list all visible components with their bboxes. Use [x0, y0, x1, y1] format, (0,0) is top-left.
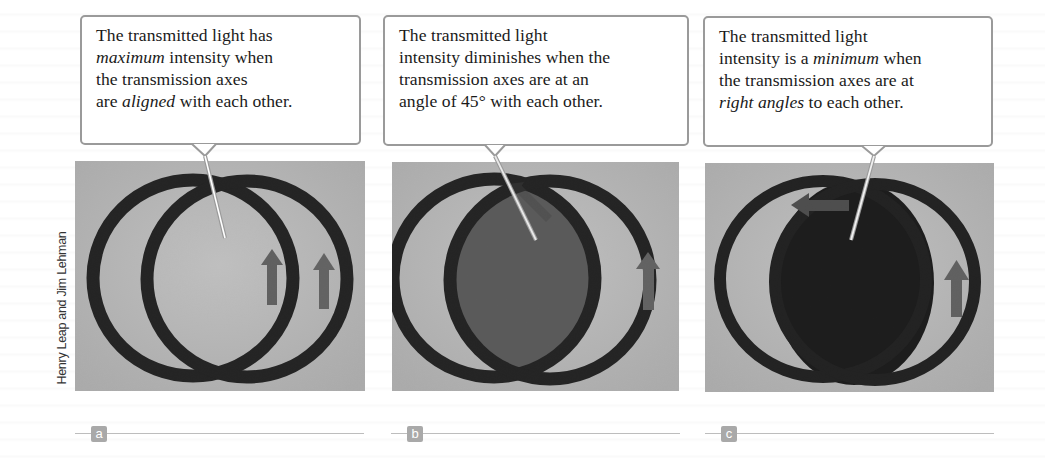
emphasis-maximum: maximum [96, 47, 165, 67]
polarizers-aligned-image [75, 161, 365, 391]
photo-panel-a [75, 161, 365, 391]
callout-c-line-4: right angles to each other. [719, 91, 979, 113]
polarizers-45-degree-image [392, 162, 679, 391]
panel-label-row-a: a [75, 426, 364, 442]
panel-label-c: c [721, 426, 737, 442]
callout-a-line-3: the transmission axes [96, 68, 347, 90]
callout-b-line-1: The transmitted light [399, 24, 675, 46]
callout-a-line-4: are aligned with each other. [96, 90, 347, 112]
emphasis-minimum: minimum [813, 48, 879, 68]
callout-b-line-4: angle of 45° with each other. [399, 90, 675, 112]
panel-label-a: a [91, 426, 107, 442]
panel-label-row-b: b [391, 426, 680, 442]
photo-credit: Henry Leap and Jim Lehman [55, 231, 69, 384]
panel-label-row-c: c [705, 426, 994, 442]
label-rule [75, 433, 364, 434]
callout-b-line-2: intensity diminishes when the [399, 46, 675, 68]
callout-a-line-1: The transmitted light has [96, 24, 347, 46]
photo-panel-b [392, 162, 679, 391]
callout-c: The transmitted light intensity is a min… [703, 16, 993, 147]
callout-a-line-2: maximum intensity when [96, 46, 347, 68]
callout-c-line-1: The transmitted light [719, 25, 979, 47]
callout-b: The transmitted light intensity diminish… [383, 15, 689, 146]
emphasis-right-angles: right angles [719, 92, 804, 112]
callout-b-line-3: transmission axes are at an [399, 68, 675, 90]
callout-c-line-2: intensity is a minimum when [719, 47, 979, 69]
label-rule [391, 433, 680, 434]
panel-label-b: b [407, 426, 423, 442]
emphasis-aligned: aligned [122, 91, 175, 111]
callout-c-line-3: the transmission axes are at [719, 69, 979, 91]
callout-a: The transmitted light has maximum intens… [80, 15, 361, 145]
label-rule [705, 433, 994, 434]
polarizers-crossed-image [705, 163, 994, 392]
photo-panel-c [705, 163, 994, 392]
